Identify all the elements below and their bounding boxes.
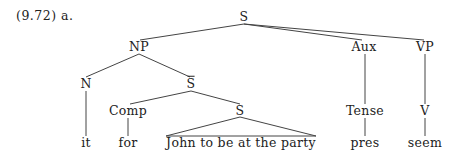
node-comp: Comp <box>109 105 147 118</box>
example-number: (9.72) a. <box>16 8 74 23</box>
branch-np-sbar <box>139 54 190 77</box>
tree-branches <box>0 0 463 157</box>
branch-np-n <box>86 54 139 77</box>
branch-s-aux <box>244 24 362 40</box>
syntax-tree-diagram: (9.72) a. S NP Aux VP N S Tense V Comp S… <box>0 0 463 157</box>
leaf-seem: seem <box>408 137 442 150</box>
branch-sbar-s <box>191 91 240 104</box>
node-aux: Aux <box>351 41 376 54</box>
node-n: N <box>80 78 91 91</box>
node-s-embedded: S <box>236 105 245 118</box>
node-s-root: S <box>240 11 249 24</box>
node-np: NP <box>129 41 149 54</box>
triangle-left <box>166 117 240 136</box>
s-bar-label: S <box>187 78 196 91</box>
branch-s-vp <box>244 24 424 40</box>
branch-s-np <box>140 24 244 40</box>
node-v: V <box>420 105 429 118</box>
node-vp: VP <box>416 41 434 54</box>
leaf-for: for <box>118 137 137 150</box>
leaf-it: it <box>81 137 91 150</box>
node-s-bar: S <box>187 78 196 91</box>
leaf-pres: pres <box>351 137 380 150</box>
leaf-clause: John to be at the party <box>166 137 316 150</box>
node-tense: Tense <box>346 105 384 118</box>
triangle-right <box>240 117 316 136</box>
